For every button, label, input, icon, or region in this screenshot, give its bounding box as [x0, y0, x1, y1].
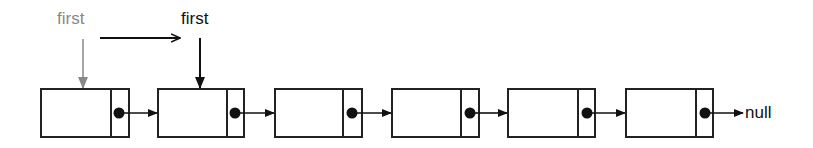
null-label: null	[745, 104, 771, 121]
next-pointer-dot-icon	[114, 108, 125, 119]
list-node	[508, 89, 625, 137]
new-first-label: first	[181, 10, 208, 27]
list-node	[626, 89, 743, 137]
next-pointer-dot-icon	[347, 108, 358, 119]
list-node	[41, 89, 157, 137]
linked-list-diagram	[0, 0, 813, 148]
list-node	[392, 89, 507, 137]
next-pointer-dot-icon	[700, 108, 711, 119]
next-pointer-dot-icon	[582, 108, 593, 119]
old-first-label: first	[57, 10, 84, 27]
list-node	[158, 89, 274, 137]
list-node	[275, 89, 391, 137]
next-pointer-dot-icon	[230, 108, 241, 119]
next-pointer-dot-icon	[465, 108, 476, 119]
